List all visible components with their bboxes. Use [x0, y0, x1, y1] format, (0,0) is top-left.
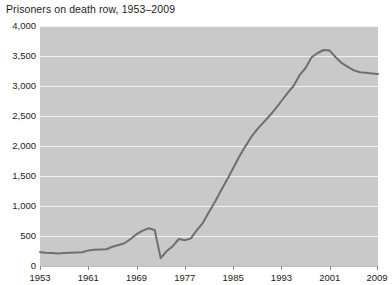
x-tick-label: 1985 — [223, 272, 244, 283]
x-tick-label: 1953 — [29, 272, 50, 283]
y-tick-label: 1,500 — [12, 171, 36, 181]
line-series-prisoners-on-death-row — [40, 26, 378, 266]
x-tick-mark — [281, 266, 282, 270]
x-tick-mark — [185, 266, 186, 270]
x-tick-mark — [137, 266, 138, 270]
x-axis: 19531961196919771985199320012009 — [40, 266, 378, 285]
x-tick-label: 2001 — [319, 272, 340, 283]
x-tick-label: 1993 — [271, 272, 292, 283]
y-tick-label: 2,500 — [12, 111, 36, 121]
x-tick-mark — [88, 266, 89, 270]
x-tick-mark — [233, 266, 234, 270]
x-tick-label: 2009 — [366, 272, 387, 283]
y-tick-label: 3,500 — [12, 51, 36, 61]
x-tick-mark — [330, 266, 331, 270]
plot-wrapper — [40, 26, 378, 266]
y-tick-label: 1,000 — [12, 201, 36, 211]
y-tick-label: 3,000 — [12, 81, 36, 91]
x-tick-label: 1977 — [174, 272, 195, 283]
chart-figure: Prisoners on death row, 1953–2009 05001,… — [0, 0, 392, 285]
x-tick-mark — [40, 266, 41, 270]
x-tick-label: 1969 — [126, 272, 147, 283]
chart-title: Prisoners on death row, 1953–2009 — [6, 3, 175, 16]
x-tick-mark — [377, 266, 378, 270]
y-tick-label: 4,000 — [12, 21, 36, 31]
y-axis: 05001,0001,5002,0002,5003,0003,5004,000 — [0, 26, 36, 266]
y-tick-label: 500 — [20, 231, 36, 241]
x-tick-label: 1961 — [78, 272, 99, 283]
y-tick-label: 0 — [31, 261, 36, 271]
y-tick-label: 2,000 — [12, 141, 36, 151]
